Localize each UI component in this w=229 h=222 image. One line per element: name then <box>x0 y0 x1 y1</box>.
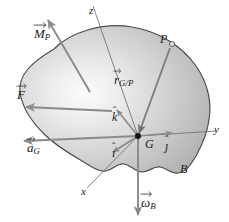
label-a-glyph: a <box>27 140 34 155</box>
arrow-accent-icon <box>113 67 121 72</box>
label-unit-vector-j: ˆȷ <box>165 140 168 152</box>
vector-overbar-omega: ω <box>141 196 150 209</box>
label-axis-y: y <box>214 124 219 135</box>
label-force-F: F <box>17 88 25 101</box>
label-a-subscript: G <box>34 146 40 156</box>
label-M-subscript: P <box>45 32 50 42</box>
label-omega-subscript: B <box>150 201 155 211</box>
arrow-accent-icon <box>140 190 152 195</box>
hat-accent-k: ˆk <box>112 111 117 123</box>
label-F-glyph: F <box>17 87 25 102</box>
arrow-accent-icon <box>16 82 27 87</box>
label-position-rGP: rG/P <box>114 73 133 88</box>
vector-overbar-a: a <box>27 141 34 154</box>
point-marker-G <box>135 133 141 139</box>
label-acceleration-aG: aG <box>27 141 40 156</box>
circumflex-icon: ˆ <box>112 141 116 152</box>
label-point-G: G <box>145 138 154 150</box>
label-angular-velocity-omegaB: ωB <box>141 196 156 211</box>
label-point-P: P <box>160 33 167 45</box>
label-r-subscript: G/P <box>119 78 133 88</box>
label-unit-vector-k: ˆk <box>112 111 117 123</box>
rigid-body-diagram-figure: MP F aG ωB rG/P P G B x y z ˆk ˆı ˆȷ <box>0 0 229 222</box>
label-axis-x: x <box>81 186 86 197</box>
label-moment-MP: MP <box>34 27 50 42</box>
vector-overbar-F: F <box>17 88 25 101</box>
circumflex-icon: ˆ <box>113 105 117 116</box>
label-unit-vector-i: ˆı <box>112 147 115 159</box>
hat-accent-i: ˆı <box>112 147 115 159</box>
label-r-glyph: r <box>114 72 119 87</box>
circumflex-icon: ˆ <box>165 134 169 145</box>
vector-overbar-r: r <box>114 73 119 86</box>
arrow-accent-icon <box>33 21 47 26</box>
arrow-accent-icon <box>26 135 36 140</box>
label-axis-z: z <box>89 5 93 16</box>
label-body-B: B <box>180 163 187 175</box>
vector-overbar-M: M <box>34 27 45 40</box>
label-omega-glyph: ω <box>141 195 150 210</box>
point-marker-P <box>170 42 175 47</box>
label-M-glyph: M <box>34 26 45 41</box>
hat-accent-j: ˆȷ <box>165 140 168 152</box>
